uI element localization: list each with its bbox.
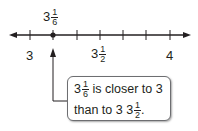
up-arrow-icon xyxy=(50,48,56,57)
point-marker xyxy=(50,32,55,37)
left-arrow-icon xyxy=(9,32,17,38)
right-arrow-icon xyxy=(183,32,191,38)
callout-connector xyxy=(53,52,67,101)
callout-line-1: 316 is closer to 3 xyxy=(74,79,164,100)
callout-line-2: than to 3 312. xyxy=(74,100,164,121)
point-label: 316 xyxy=(43,8,58,27)
tick-label-4: 4 xyxy=(166,49,173,62)
callout-box: 316 is closer to 3 than to 3 312. xyxy=(67,76,171,121)
tick-label-3: 3 xyxy=(26,49,33,62)
tick-label-3-half: 312 xyxy=(91,45,106,64)
